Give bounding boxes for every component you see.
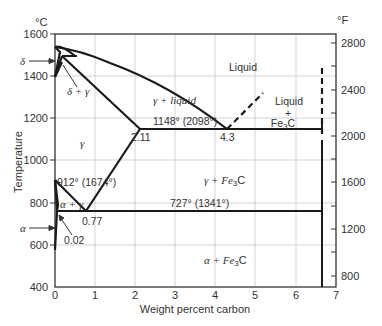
svg-text:5: 5 xyxy=(252,289,258,301)
liquidus-hypereutectic xyxy=(227,93,263,129)
svg-text:6: 6 xyxy=(293,289,299,301)
svg-text:2400: 2400 xyxy=(341,84,365,96)
svg-text:800: 800 xyxy=(30,197,48,209)
region-delta: δ xyxy=(20,55,26,67)
region-gamma-fe3c: γ + Fe3C xyxy=(204,174,245,188)
svg-text:1: 1 xyxy=(92,289,98,301)
x-axis-tick-labels: 0 1 2 3 4 5 6 7 xyxy=(52,289,339,301)
svg-text:0: 0 xyxy=(52,289,58,301)
c-4-3-label: 4.3 xyxy=(220,131,235,143)
c-2-11-label: 2.11 xyxy=(131,131,151,143)
svg-text:2: 2 xyxy=(132,289,138,301)
grid xyxy=(55,34,336,287)
svg-text:2000: 2000 xyxy=(341,130,365,142)
region-delta-gamma: δ + γ xyxy=(67,85,90,97)
region-alpha: α xyxy=(20,222,26,234)
svg-text:800: 800 xyxy=(341,270,359,282)
c-0-02-label: 0.02 xyxy=(64,234,85,246)
svg-text:1000: 1000 xyxy=(24,154,48,166)
svg-text:3: 3 xyxy=(172,289,178,301)
region-alpha-fe3c: α + Fe3C xyxy=(204,254,247,268)
svg-text:1400: 1400 xyxy=(24,70,48,82)
t-727-label: 727° (1341°) xyxy=(170,197,229,209)
svg-text:600: 600 xyxy=(30,239,48,251)
right-axis-tick-labels: 2800 2400 2000 1600 1200 800 xyxy=(341,37,365,282)
region-gamma-liquid: γ + liquid xyxy=(153,94,196,106)
svg-text:2800: 2800 xyxy=(341,37,365,49)
region-liquid: Liquid xyxy=(229,61,257,73)
svg-text:7: 7 xyxy=(333,289,339,301)
region-alpha-gamma: α + γ xyxy=(60,198,84,210)
svg-text:1600: 1600 xyxy=(341,176,365,188)
eutectic-temp-label: 1148° (2098°) xyxy=(153,115,217,127)
svg-text:1200: 1200 xyxy=(24,112,48,124)
svg-text:400: 400 xyxy=(30,281,48,293)
plot-frame xyxy=(55,34,336,287)
left-unit-label: °C xyxy=(35,16,47,28)
right-unit-label: °F xyxy=(337,14,348,26)
region-liquid-fe3c: Liquid + Fe3C xyxy=(271,95,303,131)
y-axis-title: Temperature xyxy=(12,131,24,193)
c-0-77-label: 0.77 xyxy=(82,215,103,227)
left-axis-ticks xyxy=(50,34,55,245)
x-axis-title: Weight percent carbon xyxy=(140,303,250,315)
left-axis-tick-labels: 1600 1400 1200 1000 800 600 400 xyxy=(24,28,48,293)
t-912-label: 912° (1674°) xyxy=(57,176,116,188)
right-axis-ticks xyxy=(331,43,336,276)
svg-text:Liquid: Liquid xyxy=(275,95,303,107)
iron-carbon-phase-diagram: 0 1 2 3 4 5 6 7 1600 1400 1200 1000 800 … xyxy=(0,0,382,326)
svg-text:Fe3C: Fe3C xyxy=(271,117,296,131)
svg-text:1200: 1200 xyxy=(341,223,365,235)
region-gamma: γ xyxy=(80,137,85,149)
svg-text:1600: 1600 xyxy=(24,28,48,40)
svg-text:4: 4 xyxy=(212,289,218,301)
